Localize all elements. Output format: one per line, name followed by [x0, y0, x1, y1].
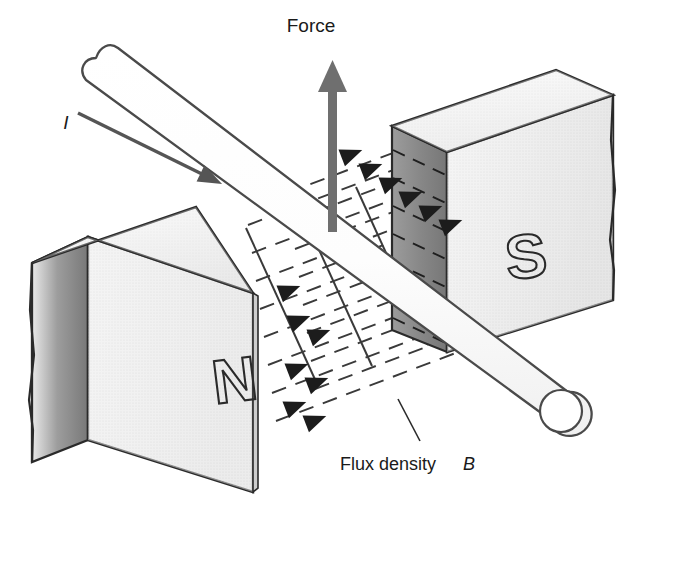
diagram-canvas: S N — [0, 0, 689, 561]
current-label: I — [63, 112, 69, 133]
north-pole-letter: N — [208, 343, 261, 417]
flux-density-text: Flux density — [340, 454, 436, 474]
force-label: Force — [287, 15, 336, 36]
conductor-end-cross-section — [540, 390, 582, 432]
magnetic-force-diagram: S N — [0, 0, 689, 561]
north-side-face — [32, 237, 88, 462]
force-arrow-shaft — [328, 82, 337, 232]
south-pole-letter: S — [501, 219, 550, 293]
flux-density-symbol: B — [463, 454, 475, 474]
